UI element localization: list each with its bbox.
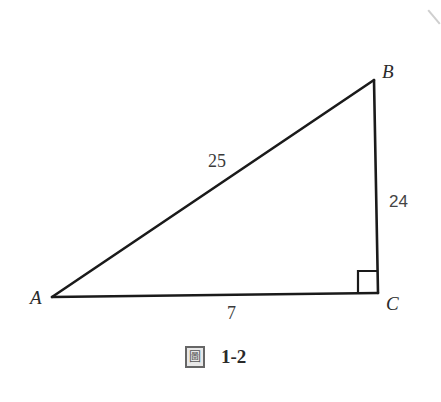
diagram-canvas: A B C 25 24 7 圖 1-2	[0, 0, 441, 402]
side-ac	[52, 293, 378, 297]
caption-prefix: 圖	[185, 346, 205, 368]
vertex-label-b: B	[382, 62, 394, 81]
figure-caption: 圖 1-2	[185, 346, 246, 368]
vertex-label-c: C	[386, 294, 399, 313]
side-label-bc: 24	[389, 193, 408, 210]
triangle-figure	[0, 0, 441, 402]
side-label-ac: 7	[227, 304, 236, 322]
vertex-label-a: A	[30, 288, 42, 307]
caption-number: 1-2	[221, 346, 246, 368]
side-ab	[52, 80, 374, 297]
side-bc	[374, 80, 378, 293]
right-angle-marker	[358, 271, 377, 293]
side-label-ab: 25	[208, 152, 226, 170]
